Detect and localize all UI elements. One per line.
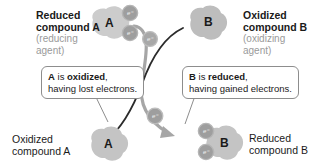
callout-b-mid: is (196, 71, 208, 82)
callout-b-verb: reduced (208, 71, 245, 82)
redox-diagram: A B A B e⁻ e⁻ e⁻ e⁻ e⁻ e⁻ Reduced compou… (0, 0, 320, 168)
oxidized-compound-b-sub-line2: agent) (243, 45, 307, 57)
reduced-compound-a-sub-line1: (reducing (36, 33, 100, 45)
callout-b-line1: B is reduced, (189, 71, 248, 82)
oxidized-compound-b-sub-line1: (oxidizing (243, 33, 307, 45)
compound-a-bottom-shape (91, 127, 128, 161)
reduced-compound-a-label: Reduced compound A (reducing agent) (36, 10, 100, 56)
oxidized-compound-b-title-line1: Oxidized (243, 10, 307, 22)
oxidized-compound-a-label: Oxidized compound A (12, 134, 70, 157)
callout-a-subject: A (48, 71, 55, 82)
reduced-compound-b-line1: Reduced (249, 133, 308, 145)
callout-a-verb: oxidized (67, 71, 105, 82)
reduced-compound-a-title-line2: compound A (36, 22, 100, 34)
reduced-compound-a-sub-line2: agent) (36, 45, 100, 57)
callout-a-mid: is (55, 71, 67, 82)
callout-a-punct: , (105, 71, 108, 82)
callout-b-line2: having gained electrons. (189, 83, 292, 95)
reduced-compound-b-label: Reduced compound B (249, 133, 308, 156)
callout-b-subject: B (189, 71, 196, 82)
compound-b-top-shape (190, 6, 227, 40)
reduced-compound-b-line2: compound B (249, 145, 308, 157)
oxidized-compound-b-label: Oxidized compound B (oxidizing agent) (243, 10, 307, 56)
callout-b-reduced: B is reduced, having gained electrons. (182, 66, 299, 99)
callout-a-line2: having lost electrons. (48, 83, 137, 95)
callout-a-line1: A is oxidized, (48, 71, 108, 82)
oxidized-compound-a-line2: compound A (12, 146, 70, 158)
oxidized-compound-a-line1: Oxidized (12, 134, 70, 146)
callout-b-punct: , (245, 71, 248, 82)
oxidized-compound-b-title-line2: compound B (243, 22, 307, 34)
callout-a-oxidized: A is oxidized, having lost electrons. (41, 66, 144, 99)
reduced-compound-a-title-line1: Reduced (36, 10, 100, 22)
